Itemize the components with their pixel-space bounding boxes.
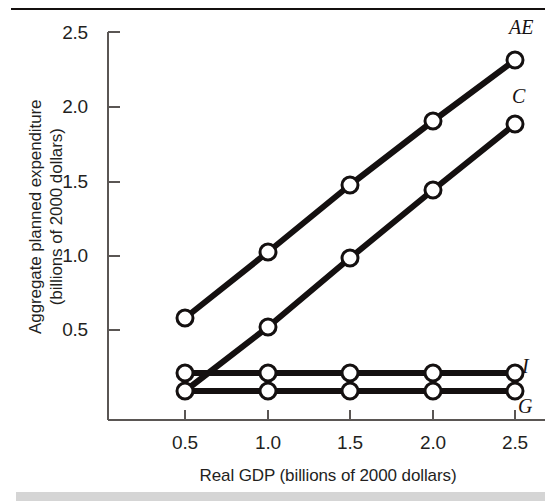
data-point-I-4 xyxy=(507,365,523,381)
data-point-C-3 xyxy=(425,182,441,198)
data-point-I-1 xyxy=(260,365,276,381)
data-point-AE-2 xyxy=(342,177,358,193)
data-point-I-3 xyxy=(425,365,441,381)
data-point-I-2 xyxy=(342,365,358,381)
data-point-C-1 xyxy=(260,319,276,335)
axes-group xyxy=(108,32,545,420)
data-point-G-4 xyxy=(507,383,523,399)
data-point-AE-1 xyxy=(260,244,276,260)
series-line-C xyxy=(185,116,523,391)
y-axis-ticks xyxy=(108,32,120,330)
data-point-C-2 xyxy=(342,250,358,266)
data-point-AE-3 xyxy=(425,113,441,129)
series-line-I xyxy=(177,365,523,381)
data-point-AE-0 xyxy=(177,310,193,326)
data-point-I-0 xyxy=(177,365,193,381)
data-point-AE-4 xyxy=(507,52,523,68)
data-point-G-3 xyxy=(425,383,441,399)
series-line-G xyxy=(177,383,523,399)
x-axis-ticks xyxy=(185,410,515,420)
bottom-gray-band xyxy=(16,492,545,501)
plot-area xyxy=(0,0,555,504)
data-point-G-2 xyxy=(342,383,358,399)
data-point-G-0 xyxy=(177,383,193,399)
series-line-AE xyxy=(177,52,523,326)
data-point-C-4 xyxy=(507,116,523,132)
figure-container: Aggregate planned expenditure (billions … xyxy=(0,0,555,504)
data-point-G-1 xyxy=(260,383,276,399)
